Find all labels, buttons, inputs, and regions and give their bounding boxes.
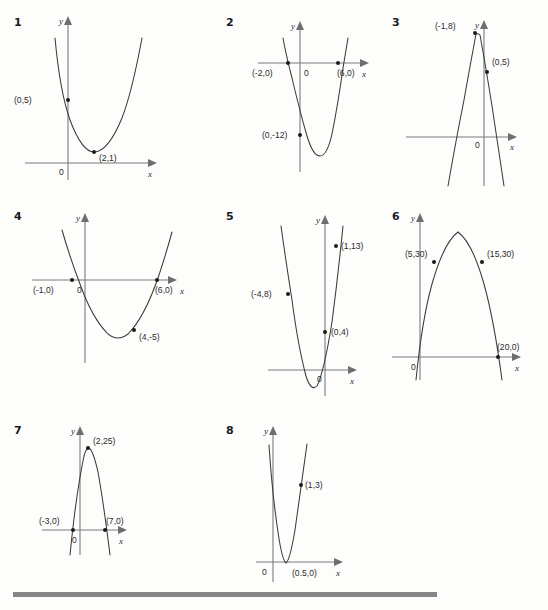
point-label: (-4,8) (251, 289, 272, 299)
x-axis-label: x (514, 363, 519, 373)
point-label: (7,0) (106, 516, 124, 526)
y-axis-arrow (480, 20, 488, 29)
point-label: (1,3) (305, 480, 323, 490)
y-axis-label: y (75, 213, 80, 223)
point-label: (15,30) (487, 249, 514, 259)
point-marker (286, 292, 290, 296)
point-label: (0,4) (331, 327, 349, 337)
x-axis-label: x (361, 69, 366, 79)
x-axis-arrow (360, 59, 369, 67)
graph-panel-8: 8 (1,3) (0.5,0) 0 x y (200, 410, 380, 592)
point-marker (323, 330, 327, 334)
origin-label: 0 (262, 567, 267, 577)
y-axis-label: y (263, 426, 268, 436)
worksheet-sheet: 1 (0,5) (2,1) 0 x y 2 (0, 0, 548, 610)
point-marker (334, 244, 338, 248)
graph-panel-3: 3 (-1,8) (0,5) 0 x y (370, 0, 548, 200)
point-label: (0,5) (492, 57, 510, 67)
x-axis-arrow (118, 526, 127, 534)
point-marker (92, 150, 96, 154)
graph-plot-5: (-4,8) (1,13) (0,4) 0 x y (200, 200, 380, 410)
parabola-curve (62, 230, 172, 338)
graph-plot-6: (5,30) (15,30) (20,0) 0 x y (370, 200, 548, 410)
point-marker (336, 61, 340, 65)
point-marker (66, 98, 70, 102)
graph-plot-8: (1,3) (0.5,0) 0 x y (200, 410, 380, 592)
y-axis-arrow (269, 426, 277, 435)
point-label: (20,0) (497, 342, 520, 352)
y-axis-label: y (70, 426, 75, 436)
point-label: (0,5) (14, 95, 32, 105)
parabola-curve (283, 38, 348, 156)
graph-panel-2: 2 (-2,0) (6,0) (0,-12) 0 x y (200, 0, 380, 200)
parabola-curve (281, 226, 343, 388)
y-axis-arrow (296, 21, 304, 30)
origin-label: 0 (317, 374, 322, 384)
x-axis-arrow (348, 366, 357, 374)
point-marker (473, 31, 477, 35)
point-marker (485, 70, 489, 74)
point-marker (70, 278, 74, 282)
x-axis-arrow (512, 353, 521, 361)
x-axis-label: x (118, 536, 123, 546)
point-label: (-1,0) (33, 285, 54, 295)
origin-label: 0 (304, 68, 309, 78)
origin-label: 0 (72, 535, 77, 545)
point-label: (5,30) (405, 249, 428, 259)
y-axis-label: y (410, 213, 415, 223)
parabola-curve (269, 444, 307, 563)
y-axis-label: y (315, 215, 320, 225)
point-marker (132, 328, 136, 332)
x-axis-label: x (179, 286, 184, 296)
origin-label: 0 (411, 362, 416, 372)
point-marker (480, 260, 484, 264)
point-marker (299, 483, 303, 487)
x-axis-label: x (335, 568, 340, 578)
point-label: (6,0) (337, 68, 355, 78)
graph-panel-6: 6 (5,30) (15,30) (20,0) 0 x y (370, 200, 548, 410)
graph-panel-7: 7 (2,25) (-3,0) (7,0) 0 x y (0, 410, 200, 592)
bottom-divider-rule (13, 592, 437, 597)
x-axis-arrow (148, 159, 157, 167)
point-marker (298, 133, 302, 137)
point-label: (-2,0) (252, 68, 273, 78)
point-marker (432, 260, 436, 264)
y-axis-arrow (416, 213, 424, 222)
y-axis-arrow (321, 215, 329, 224)
point-label: (2,1) (99, 153, 117, 163)
point-marker (86, 446, 90, 450)
point-marker (286, 61, 290, 65)
graph-plot-3: (-1,8) (0,5) 0 x y (370, 0, 548, 200)
x-axis-label: x (147, 169, 152, 179)
y-axis-arrow (81, 213, 89, 222)
point-label: (-1,8) (435, 21, 456, 31)
origin-label: 0 (77, 285, 82, 295)
point-label: (-3,0) (39, 516, 60, 526)
y-axis-label: y (290, 21, 295, 31)
graph-panel-4: 4 (-1,0) (6,0) (4,-5) 0 x y (0, 200, 200, 410)
point-label: (6,0) (155, 285, 173, 295)
graph-panel-1: 1 (0,5) (2,1) 0 x y (0, 0, 200, 200)
graph-plot-4: (-1,0) (6,0) (4,-5) 0 x y (0, 200, 200, 410)
graph-plot-2: (-2,0) (6,0) (0,-12) 0 x y (200, 0, 380, 200)
origin-label: 0 (59, 167, 64, 177)
graph-plot-1: (0,5) (2,1) 0 x y (0, 0, 200, 200)
y-axis-label: y (58, 16, 63, 26)
x-axis-arrow (508, 133, 517, 141)
point-label: (1,13) (341, 241, 364, 251)
x-axis-label: x (509, 142, 514, 152)
point-label: (4,-5) (139, 332, 160, 342)
graph-plot-7: (2,25) (-3,0) (7,0) 0 x y (0, 410, 200, 592)
y-axis-arrow (64, 16, 72, 25)
x-axis-label: x (349, 376, 354, 386)
x-axis-arrow (334, 558, 343, 566)
origin-label: 0 (475, 140, 480, 150)
point-label: (0.5,0) (292, 568, 317, 578)
point-label: (2,25) (93, 436, 116, 446)
point-marker (103, 528, 107, 532)
point-marker (71, 528, 75, 532)
y-axis-label: y (474, 20, 479, 30)
point-marker (155, 278, 159, 282)
point-marker (496, 355, 500, 359)
x-axis-arrow (168, 276, 177, 284)
